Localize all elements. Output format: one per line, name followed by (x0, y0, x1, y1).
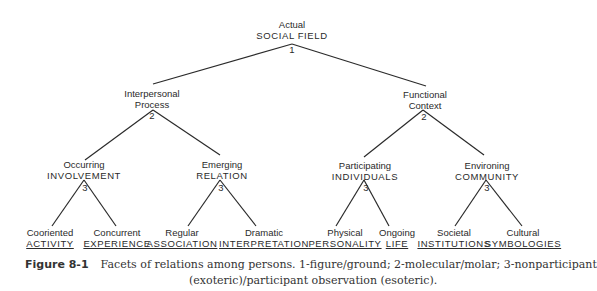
node-emerging-relation: Emerging RELATION (196, 159, 248, 181)
root-node: Actual SOCIAL FIELD (256, 19, 327, 41)
node-number: 3 (218, 182, 223, 193)
leaf-qualifier: Cooriented (26, 227, 74, 238)
node-label: INDIVIDUALS (332, 171, 398, 182)
leaf-label: ACTIVITY (26, 238, 74, 249)
node-number: 3 (82, 182, 87, 193)
leaf-label: INTERPRETATION (219, 238, 309, 249)
node-participating-individuals: Participating INDIVIDUALS (332, 160, 398, 182)
leaf-label: EXPERIENCE (83, 238, 150, 249)
leaf-label: PERSONALITY (308, 238, 381, 249)
leaf-label: ASSOCIATION (147, 238, 218, 249)
caption-line-2: (exoteric)/participant observation (esot… (189, 274, 437, 287)
node-qualifier: Functional (403, 89, 447, 100)
leaf-dramatic-interpretation: Dramatic INTERPRETATION (219, 227, 309, 249)
leaf-qualifier: Concurrent (83, 227, 150, 238)
leaf-qualifier: Dramatic (219, 227, 309, 238)
node-label: Context (403, 100, 447, 111)
leaf-qualifier: Cultural (485, 227, 561, 238)
caption-line-1: Figure 8-1Facets of relations among pers… (25, 258, 597, 271)
caption-text-1: Facets of relations among persons. 1-fig… (101, 258, 597, 271)
leaf-qualifier: Ongoing (379, 227, 415, 238)
leaf-label: INSTITUTIONS (417, 238, 490, 249)
leaf-physical-personality: Physical PERSONALITY (308, 227, 381, 249)
root-label: SOCIAL FIELD (256, 30, 327, 41)
leaf-cultural-symbologies: Cultural SYMBOLOGIES (485, 227, 561, 249)
node-label: Process (124, 99, 179, 110)
root-number: 1 (289, 44, 294, 55)
node-interpersonal-process: Interpersonal Process (124, 88, 179, 110)
node-label: INVOLVEMENT (47, 170, 121, 181)
leaf-label: LIFE (379, 238, 415, 249)
leaf-qualifier: Societal (417, 227, 490, 238)
leaf-cooriented-activity: Cooriented ACTIVITY (26, 227, 74, 249)
leaf-ongoing-life: Ongoing LIFE (379, 227, 415, 249)
root-qualifier: Actual (256, 19, 327, 30)
node-number: 2 (149, 110, 154, 121)
node-number: 3 (363, 182, 368, 193)
leaf-concurrent-experience: Concurrent EXPERIENCE (83, 227, 150, 249)
node-environing-community: Environing COMMUNITY (455, 160, 519, 182)
node-label: RELATION (196, 170, 248, 181)
node-qualifier: Emerging (196, 159, 248, 170)
node-functional-context: Functional Context (403, 89, 447, 111)
leaf-societal-institutions: Societal INSTITUTIONS (417, 227, 490, 249)
node-qualifier: Interpersonal (124, 88, 179, 99)
leaf-label: SYMBOLOGIES (485, 238, 561, 249)
node-qualifier: Participating (332, 160, 398, 171)
node-number: 3 (484, 182, 489, 193)
node-qualifier: Environing (455, 160, 519, 171)
node-occurring-involvement: Occurring INVOLVEMENT (47, 159, 121, 181)
node-number: 2 (421, 111, 426, 122)
node-qualifier: Occurring (47, 159, 121, 170)
leaf-regular-association: Regular ASSOCIATION (147, 227, 218, 249)
node-label: COMMUNITY (455, 171, 519, 182)
leaf-qualifier: Physical (308, 227, 381, 238)
leaf-qualifier: Regular (147, 227, 218, 238)
figure-label: Figure 8-1 (25, 258, 89, 271)
